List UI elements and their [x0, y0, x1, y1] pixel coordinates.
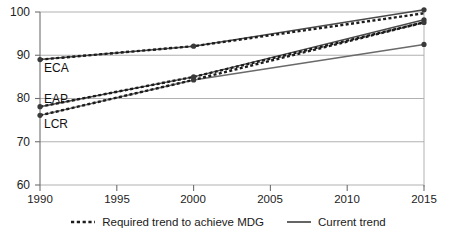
legend-label-required: Required trend to achieve MDG	[102, 216, 264, 228]
x-tick-2000: 2000	[168, 193, 218, 205]
series-label-eap: EAP	[44, 93, 68, 105]
x-tick-1995: 1995	[92, 193, 142, 205]
x-tick-2010: 2010	[322, 193, 372, 205]
data-point-marker	[191, 44, 196, 49]
data-point-marker	[191, 77, 196, 82]
chart-legend: Required trend to achieve MDG Current tr…	[0, 213, 456, 231]
x-tick-1990: 1990	[15, 193, 65, 205]
data-point-marker	[421, 7, 426, 12]
data-point-marker	[37, 113, 42, 118]
data-point-marker	[37, 104, 42, 109]
y-tick-100: 100	[0, 6, 30, 18]
y-tick-70: 70	[0, 136, 30, 148]
series-line-eap-dashed	[40, 22, 424, 106]
x-tick-2005: 2005	[245, 193, 295, 205]
y-tick-80: 80	[0, 92, 30, 104]
series-label-lcr: LCR	[44, 118, 68, 130]
data-point-marker	[421, 20, 426, 25]
dashed-line-swatch-icon	[70, 218, 96, 226]
line-chart-plot	[0, 0, 456, 234]
data-point-marker	[37, 57, 42, 62]
y-tick-60: 60	[0, 179, 30, 191]
x-tick-2015: 2015	[399, 193, 449, 205]
legend-item-current: Current trend	[286, 216, 386, 228]
series-line-eap-solid	[40, 20, 424, 107]
solid-line-swatch-icon	[286, 218, 312, 226]
series-label-eca: ECA	[44, 62, 69, 74]
chart-figure: 100 90 80 70 60 1990 1995 2000 2005 2010…	[0, 0, 456, 234]
y-tick-90: 90	[0, 49, 30, 61]
data-point-marker	[421, 42, 426, 47]
legend-label-current: Current trend	[318, 216, 386, 228]
legend-item-required: Required trend to achieve MDG	[70, 216, 264, 228]
